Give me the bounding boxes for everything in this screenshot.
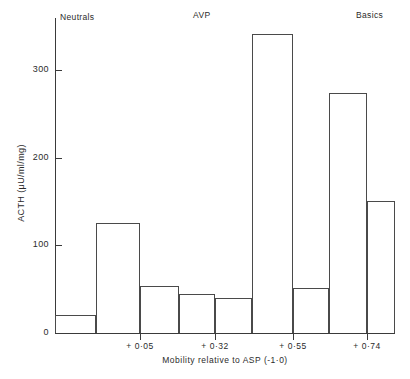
acth-mobility-bar-chart: Neutrals AVP Basics ACTH (μU/ml/mg) Mobi… [0, 0, 410, 379]
y-tick-label-100: 100 [19, 239, 49, 249]
group-label-basics: Basics [356, 10, 383, 20]
group-label-avp: AVP [193, 10, 210, 20]
bar-2 [96, 223, 140, 333]
bar-4 [179, 294, 215, 333]
x-tick-3 [293, 334, 294, 340]
x-tick-label-2: + 0·32 [185, 341, 245, 351]
bar-3 [140, 286, 179, 333]
bar-8 [329, 93, 367, 333]
x-tick-2 [215, 334, 216, 340]
y-tick-label-200: 200 [19, 152, 49, 162]
x-tick-4 [367, 334, 368, 340]
bar-9 [367, 201, 395, 333]
group-label-neutrals: Neutrals [60, 12, 94, 22]
x-axis-line [55, 333, 395, 334]
x-axis-title: Mobility relative to ASP (-1·0) [55, 355, 395, 365]
y-tick-200 [56, 158, 62, 159]
x-tick-label-4: + 0·74 [337, 341, 397, 351]
bar-1 [55, 315, 96, 333]
y-tick-label-300: 300 [19, 64, 49, 74]
y-tick-300 [56, 70, 62, 71]
bar-7 [293, 288, 329, 333]
y-tick-100 [56, 245, 62, 246]
bar-5 [215, 298, 252, 333]
y-axis-line [55, 18, 56, 334]
bar-6 [252, 34, 293, 333]
x-tick-label-1: + 0·05 [110, 341, 170, 351]
x-tick-1 [140, 334, 141, 340]
y-tick-label-0: 0 [19, 327, 49, 337]
x-tick-label-3: + 0·55 [263, 341, 323, 351]
y-axis-title: ACTH (μU/ml/mg) [16, 118, 26, 248]
